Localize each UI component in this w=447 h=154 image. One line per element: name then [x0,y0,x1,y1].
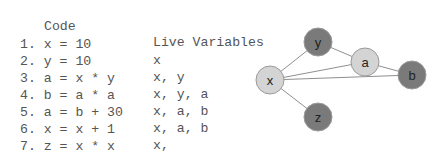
node-label-a: a [361,55,369,70]
node-label-b: b [408,68,415,83]
node-label-x: x [267,73,274,88]
node-label-y: y [315,35,322,50]
node-label-z: z [315,110,322,125]
interference-graph: xyabz [0,0,447,154]
